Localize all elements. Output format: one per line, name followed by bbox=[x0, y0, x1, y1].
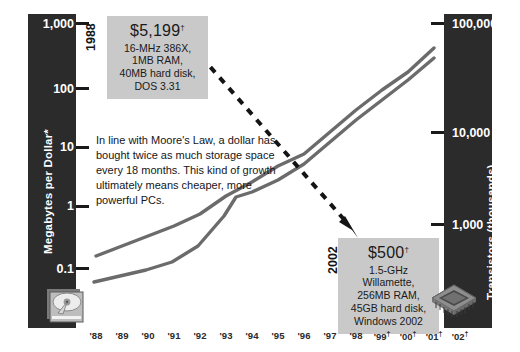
right-axis-tick-1000: 1,000 bbox=[452, 218, 483, 232]
callout-2002-price: $500† bbox=[345, 243, 432, 263]
x-tick-88: '88 bbox=[90, 330, 103, 341]
callout-year-1988: 1988 bbox=[84, 23, 98, 51]
callout-1988-spec-cpu: 16-MHz 386X, bbox=[114, 42, 201, 55]
left-axis-tick-1: 1 bbox=[67, 199, 74, 213]
callout-2002-spec-ram: 256MB RAM, bbox=[345, 289, 432, 302]
callout-1988-price: $5,199† bbox=[114, 21, 201, 41]
callout-2002-spec-clock: 1.5-GHz bbox=[345, 264, 432, 277]
x-axis: '88 '89 '90 '91 '92 '93 '94 '95 '96 '97 … bbox=[76, 330, 444, 348]
callout-2002-spec-disk: 45GB hard disk, bbox=[345, 302, 432, 315]
callout-1988-spec-ram: 1MB RAM, bbox=[114, 54, 201, 67]
x-tick-02: '02† bbox=[452, 330, 469, 342]
left-axis-tick-0-1: 0.1 bbox=[57, 262, 74, 276]
x-tick-01: '01† bbox=[426, 330, 443, 342]
callout-1988: $5,199† 16-MHz 386X, 1MB RAM, 40MB hard … bbox=[107, 16, 208, 99]
left-axis-title: Megabytes per Dollar* bbox=[42, 129, 54, 254]
right-axis-tick-10000: 10,000 bbox=[452, 126, 490, 140]
x-tick-98: '98 bbox=[350, 330, 363, 341]
callout-2002-price-marker: † bbox=[404, 245, 409, 254]
x-tick-89: '89 bbox=[116, 330, 129, 341]
x-tick-91: '91 bbox=[168, 330, 181, 341]
x-tick-97: '97 bbox=[324, 330, 337, 341]
callout-1988-price-marker: † bbox=[180, 23, 185, 32]
callout-2002-spec-cpu: Willamette, bbox=[345, 276, 432, 289]
x-tick-99: '99† bbox=[374, 330, 391, 342]
x-tick-94: '94 bbox=[246, 330, 259, 341]
chart-figure: Megabytes per Dollar* 1,000 100 10 1 0.1… bbox=[0, 0, 520, 352]
callout-1988-spec-disk: 40MB hard disk, bbox=[114, 67, 201, 80]
x-tick-93: '93 bbox=[220, 330, 233, 341]
x-tick-95: '95 bbox=[272, 330, 285, 341]
left-axis-tick-10: 10 bbox=[60, 140, 74, 154]
callout-2002: $500† 1.5-GHz Willamette, 256MB RAM, 45G… bbox=[338, 238, 439, 334]
callout-2002-spec-os: Windows 2002 bbox=[345, 315, 432, 328]
left-axis-tick-1000: 1,000 bbox=[43, 17, 74, 31]
x-tick-92: '92 bbox=[194, 330, 207, 341]
moores-law-annotation: In line with Moore's Law, a dollar has b… bbox=[96, 133, 282, 208]
x-tick-90: '90 bbox=[142, 330, 155, 341]
right-axis-tick-100000: 100,000 bbox=[452, 17, 497, 31]
x-tick-96: '96 bbox=[298, 330, 311, 341]
left-axis-tick-100: 100 bbox=[53, 82, 74, 96]
right-axis-title: Transistors (thousands) bbox=[485, 164, 497, 300]
cpu-chip-icon bbox=[428, 279, 480, 325]
hard-disk-icon bbox=[44, 283, 90, 325]
x-tick-00: '00† bbox=[400, 330, 417, 342]
callout-1988-spec-os: DOS 3.31 bbox=[114, 80, 201, 93]
